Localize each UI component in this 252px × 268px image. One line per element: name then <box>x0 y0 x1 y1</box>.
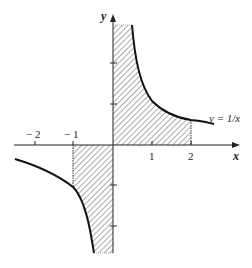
y-axis-label: y <box>99 9 107 23</box>
y-axis-arrow-icon <box>110 14 116 22</box>
x-axis-arrow-icon <box>232 142 240 148</box>
function-label: y = 1/x <box>208 112 240 124</box>
shaded-region-positive <box>113 25 191 145</box>
x-tick-label: 2 <box>188 150 194 162</box>
x-tick-label: − 1 <box>64 128 78 140</box>
graph-of-reciprocal-function: − 2 − 1 1 2 x y y = 1/x <box>0 0 252 268</box>
shaded-region-negative <box>73 145 113 253</box>
x-tick-label: 1 <box>149 150 155 162</box>
x-axis-label: x <box>232 149 239 163</box>
x-tick-label: − 2 <box>26 128 40 140</box>
